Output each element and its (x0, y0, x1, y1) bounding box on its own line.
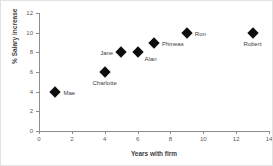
x-axis-tick (138, 131, 139, 134)
y-axis-tick (36, 52, 39, 53)
x-axis-tick-label: 10 (200, 136, 207, 142)
y-axis-tick (36, 92, 39, 93)
y-axis-tick (36, 111, 39, 112)
y-axis-tick-label: 2 (30, 108, 33, 114)
x-axis-tick (203, 131, 204, 134)
y-axis-tick-label: 4 (30, 89, 33, 95)
x-axis-tick-label: 4 (103, 136, 106, 142)
diamond-marker-icon (99, 66, 110, 77)
x-axis-line (39, 131, 269, 132)
y-axis-title: % Salary increase (12, 0, 19, 76)
y-axis-tick-label: 0 (30, 128, 33, 134)
x-axis-tick (236, 131, 237, 134)
x-axis-tick-label: 6 (136, 136, 139, 142)
x-axis-tick-label: 14 (266, 136, 273, 142)
x-axis-tick-label: 12 (233, 136, 240, 142)
data-point-label: Charlotte (93, 80, 117, 86)
x-axis-tick-label: 2 (70, 136, 73, 142)
x-axis-tick (170, 131, 171, 134)
diamond-marker-icon (181, 27, 192, 38)
data-point-label: Robert (244, 41, 262, 47)
data-point-label: Alan (145, 56, 157, 62)
plot-area: MaeCharlotteJaneAlanPhineasRonRobert (39, 13, 269, 131)
y-axis-tick (36, 33, 39, 34)
data-point-label: Ron (195, 31, 206, 37)
x-axis-tick-label: 0 (37, 136, 40, 142)
y-axis-tick (36, 72, 39, 73)
x-axis-tick (269, 131, 270, 134)
y-axis-tick-label: 12 (26, 10, 33, 16)
x-axis-tick (72, 131, 73, 134)
diamond-marker-icon (50, 86, 61, 97)
diamond-marker-icon (148, 37, 159, 48)
data-point-label: Phineas (162, 41, 184, 47)
diamond-marker-icon (132, 47, 143, 58)
y-axis-tick-label: 10 (26, 30, 33, 36)
diamond-marker-icon (247, 27, 258, 38)
data-point-label: Jane (100, 50, 113, 56)
y-axis-tick (36, 13, 39, 14)
diamond-marker-icon (115, 47, 126, 58)
scatter-chart: % Salary increase MaeCharlotteJaneAlanPh… (0, 0, 273, 166)
x-axis-tick-label: 8 (169, 136, 172, 142)
x-axis-tick (39, 131, 40, 134)
y-axis-tick-label: 6 (30, 69, 33, 75)
x-axis-title: Years with firm (39, 151, 269, 158)
y-axis-tick-label: 8 (30, 49, 33, 55)
data-point-label: Mae (63, 90, 75, 96)
x-axis-tick (105, 131, 106, 134)
